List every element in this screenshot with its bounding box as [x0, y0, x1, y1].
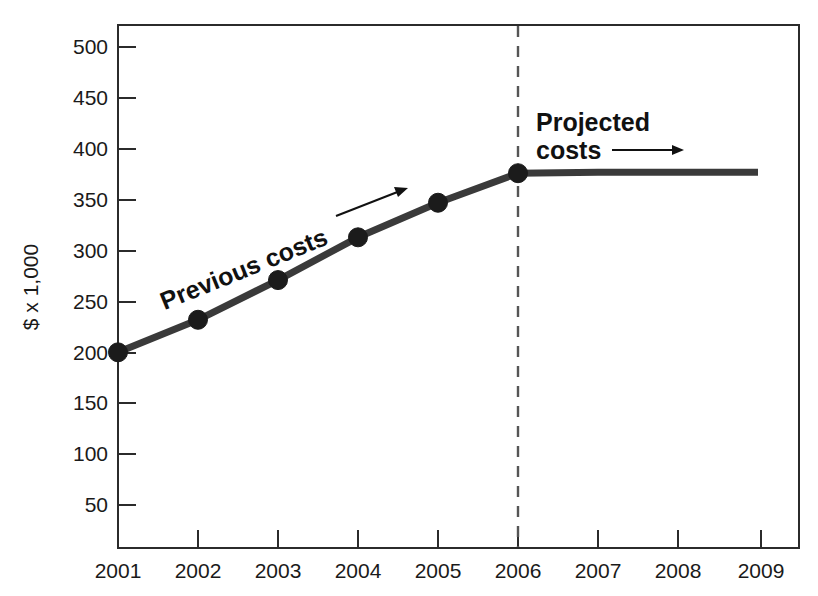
y-tick-label: 150 [73, 391, 108, 414]
projected-costs-annotation-line2: costs [536, 136, 601, 164]
data-point-marker [509, 164, 528, 183]
y-tick-label: 200 [73, 341, 108, 364]
data-point-marker [349, 228, 368, 247]
y-tick-label: 250 [73, 290, 108, 313]
data-point-marker [269, 271, 288, 290]
y-tick-label: 300 [73, 239, 108, 262]
x-tick-label: 2008 [655, 559, 702, 582]
x-tick-label: 2004 [335, 559, 382, 582]
y-tick-label: 100 [73, 442, 108, 465]
x-tick-label: 2006 [495, 559, 542, 582]
x-tick-label: 2001 [95, 559, 142, 582]
projected-costs-annotation-line1: Projected [536, 108, 650, 136]
projected-costs-line [518, 172, 758, 173]
y-tick-label: 400 [73, 137, 108, 160]
x-tick-label: 2003 [255, 559, 302, 582]
x-tick-label: 2002 [175, 559, 222, 582]
y-tick-label: 450 [73, 86, 108, 109]
data-point-marker [109, 343, 128, 362]
x-tick-label: 2009 [738, 559, 785, 582]
y-axis-tick-labels: 500 450 400 350 300 250 200 150 100 50 [73, 35, 108, 516]
x-tick-label: 2005 [415, 559, 462, 582]
y-axis-title: $ x 1,000 [19, 244, 42, 330]
y-tick-label: 350 [73, 188, 108, 211]
cost-trend-line-chart: 500 450 400 350 300 250 200 150 100 50 $… [0, 0, 818, 596]
data-point-marker [189, 310, 208, 329]
x-tick-label: 2007 [575, 559, 622, 582]
y-tick-label: 500 [73, 35, 108, 58]
data-point-marker [429, 193, 448, 212]
x-axis-tick-labels: 2001 2002 2003 2004 2005 2006 2007 2008 … [95, 559, 785, 582]
y-tick-label: 50 [85, 493, 108, 516]
chart-container: 500 450 400 350 300 250 200 150 100 50 $… [0, 0, 818, 596]
